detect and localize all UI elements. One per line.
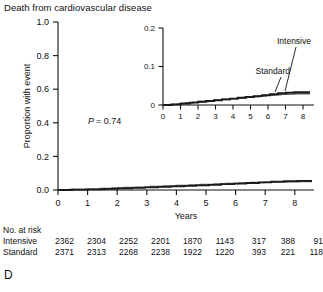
- risk-cell-standard-8: 118: [297, 247, 323, 258]
- inset-x-tick-label-1: 1: [178, 112, 183, 121]
- figure-panel-d: Death from cardiovascular disease 0.0 0.…: [0, 0, 323, 292]
- main-x-tick-label-5: 5: [203, 198, 208, 208]
- main-x-tick-label-8: 8: [292, 198, 297, 208]
- risk-cell-intensive-0: 2362: [48, 236, 74, 247]
- main-y-ticks: [53, 22, 58, 190]
- risk-cell-intensive-6: 317: [240, 236, 266, 247]
- main-y-tick-label-5: 1.0: [36, 17, 49, 27]
- risk-cell-intensive-3: 2201: [144, 236, 170, 247]
- main-x-tick-label-7: 7: [263, 198, 268, 208]
- risk-cell-standard-3: 2238: [144, 247, 170, 258]
- main-y-tick-label-3: 0.6: [36, 84, 49, 94]
- inset-x-tick-label-0: 0: [161, 112, 166, 121]
- risk-cell-intensive-7: 388: [269, 236, 295, 247]
- main-y-tick-label-1: 0.2: [36, 152, 49, 162]
- inset-y-tick-label-1: 0.1: [144, 62, 156, 71]
- main-y-tick-label-4: 0.8: [36, 51, 49, 61]
- main-y-tick-label-2: 0.4: [36, 118, 49, 128]
- risk-cell-standard-5: 1220: [208, 247, 234, 258]
- risk-cell-intensive-4: 1870: [176, 236, 202, 247]
- main-x-tick-label-2: 2: [115, 198, 120, 208]
- risk-cell-standard-7: 221: [269, 247, 295, 258]
- risk-cell-standard-0: 2371: [48, 247, 74, 258]
- main-x-tick-label-3: 3: [144, 198, 149, 208]
- risk-table-header: No. at risk: [3, 225, 41, 236]
- main-x-tick-label-1: 1: [85, 198, 90, 208]
- risk-cell-intensive-1: 2304: [80, 236, 106, 247]
- risk-row-label-standard: Standard: [3, 247, 38, 258]
- inset-x-ticks: [163, 105, 303, 110]
- inset-x-tick-label-3: 3: [213, 112, 218, 121]
- main-curve-intensive: [58, 181, 312, 190]
- risk-cell-standard-2: 2268: [112, 247, 138, 258]
- main-x-axis-title: Years: [175, 211, 198, 221]
- inset-x-tick-label-8: 8: [301, 112, 306, 121]
- risk-cell-standard-1: 2313: [80, 247, 106, 258]
- main-x-tick-label-4: 4: [174, 198, 179, 208]
- inset-x-tick-label-5: 5: [248, 112, 253, 121]
- risk-cell-standard-6: 393: [240, 247, 266, 258]
- standard-leader-line: [275, 77, 281, 92]
- inset-x-tick-label-7: 7: [283, 112, 288, 121]
- risk-table-row-intensive: Intensive 2362 2304 2252 2201 1870 1143 …: [3, 236, 41, 247]
- panel-letter: D: [4, 268, 13, 282]
- inset-x-tick-label-2: 2: [196, 112, 201, 121]
- inset-label-standard: Standard: [256, 66, 291, 76]
- inset-label-intensive: Intensive: [277, 36, 311, 46]
- main-y-axis-title: Proportion with event: [22, 63, 32, 148]
- risk-cell-intensive-5: 1143: [208, 236, 234, 247]
- inset-x-tick-label-6: 6: [266, 112, 271, 121]
- risk-row-label-intensive: Intensive: [3, 236, 37, 247]
- risk-cell-intensive-2: 2252: [112, 236, 138, 247]
- main-y-tick-label-0: 0.0: [36, 185, 49, 195]
- inset-y-tick-label-2: 0.2: [144, 24, 156, 33]
- inset-x-tick-label-4: 4: [231, 112, 236, 121]
- p-value-symbol: P: [88, 116, 94, 126]
- main-x-ticks: [58, 190, 295, 195]
- p-value-text: = 0.74: [96, 116, 121, 126]
- risk-cell-standard-4: 1922: [176, 247, 202, 258]
- number-at-risk-table: No. at risk Intensive 2362 2304 2252 220…: [3, 225, 41, 258]
- main-x-tick-label-0: 0: [55, 198, 60, 208]
- inset-chart: 0 0.1 0.2 0 1 2 3 4 5 6 7 8: [144, 24, 314, 121]
- inset-y-tick-label-0: 0: [151, 101, 156, 110]
- risk-cell-intensive-8: 91: [297, 236, 323, 247]
- risk-table-row-standard: Standard 2371 2313 2268 2238 1922 1220 3…: [3, 247, 41, 258]
- inset-y-ticks: [159, 28, 164, 105]
- main-x-tick-label-6: 6: [233, 198, 238, 208]
